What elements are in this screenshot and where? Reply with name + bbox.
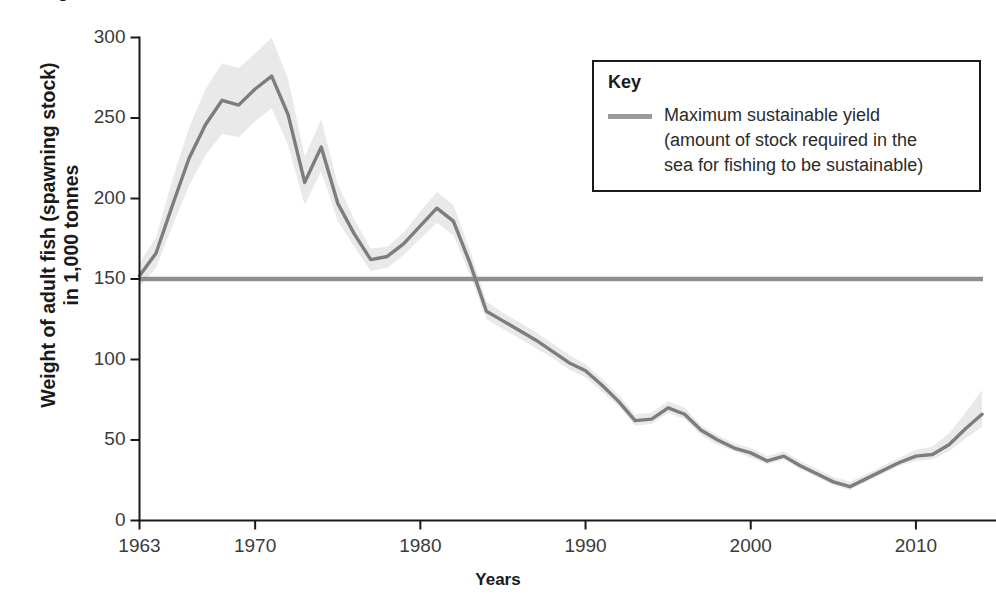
x-tick-label: 2010 [866,535,966,557]
y-tick-label: 150 [40,267,126,289]
x-tick-label: 1963 [90,535,190,557]
y-tick-label: 200 [40,187,126,209]
y-tick-label: 100 [40,348,126,370]
y-tick-label: 0 [40,509,126,531]
legend-entry-label: Maximum sustainable yield (amount of sto… [664,103,923,178]
x-tick-label: 2000 [701,535,801,557]
y-tick-label: 50 [40,428,126,450]
chart-page: Weight of adult fish in the North Sea 05… [0,0,996,612]
legend-line-swatch-icon [608,114,652,119]
x-tick-label: 1970 [205,535,305,557]
x-axis-title: Years [0,570,996,590]
legend-entry-msy: Maximum sustainable yield (amount of sto… [608,103,967,178]
legend-label-line2: (amount of stock required in the [664,130,917,150]
legend-label-line1: Maximum sustainable yield [664,105,880,125]
legend-box: Key Maximum sustainable yield (amount of… [592,60,981,192]
y-tick-label: 250 [40,106,126,128]
y-tick-label: 300 [40,26,126,48]
x-tick-label: 1990 [536,535,636,557]
x-tick-label: 1980 [370,535,470,557]
legend-title: Key [608,72,967,93]
legend-label-line3: sea for fishing to be sustainable) [664,155,923,175]
